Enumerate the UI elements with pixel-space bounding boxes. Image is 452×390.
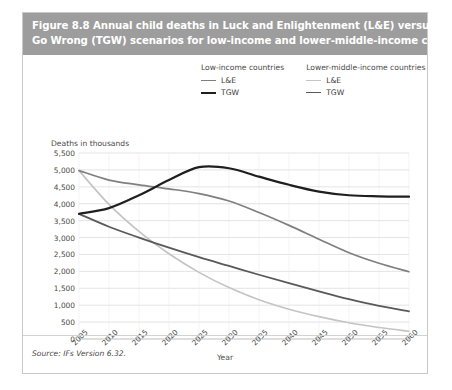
chart-svg bbox=[79, 153, 409, 339]
legend-line-swatch-icon bbox=[201, 80, 216, 81]
y-axis-tick-label: 2,500 bbox=[54, 250, 75, 259]
legend-item[interactable]: L&E bbox=[201, 76, 284, 85]
legend-item[interactable]: TGW bbox=[306, 88, 425, 97]
legend-group-heading: Low-income countries bbox=[201, 63, 284, 72]
y-axis-title: Deaths in thousands bbox=[51, 139, 129, 148]
legend-group: Low-income countriesL&ETGW bbox=[201, 63, 284, 100]
figure-container: Figure 8.8 Annual child deaths in Luck a… bbox=[22, 12, 428, 374]
source-divider bbox=[23, 335, 427, 336]
y-axis-tick-label: 3,000 bbox=[54, 233, 75, 242]
figure-title-line-1: Figure 8.8 Annual child deaths in Luck a… bbox=[32, 19, 418, 34]
y-axis-tick-label: 500 bbox=[61, 318, 75, 327]
y-axis-tick-label: 1,500 bbox=[54, 284, 75, 293]
y-axis-tick-labels: 5,5005,0004,5004,0003,5003,0002,5002,000… bbox=[23, 153, 75, 339]
y-axis-tick-label: 2,000 bbox=[54, 267, 75, 276]
legend-group: Lower-middle-income countriesL&ETGW bbox=[306, 63, 425, 100]
chart-panel: Low-income countriesL&ETGWLower-middle-i… bbox=[23, 55, 427, 366]
y-axis-tick-label: 3,500 bbox=[54, 216, 75, 225]
y-axis-tick-label: 4,500 bbox=[54, 182, 75, 191]
legend-group-heading: Lower-middle-income countries bbox=[306, 63, 425, 72]
series-line bbox=[79, 171, 409, 272]
legend-line-swatch-icon bbox=[201, 92, 216, 94]
y-axis-tick-label: 5,500 bbox=[54, 149, 75, 158]
figure-title-bar: Figure 8.8 Annual child deaths in Luck a… bbox=[23, 13, 427, 55]
y-axis-tick-label: 5,000 bbox=[54, 165, 75, 174]
y-axis-tick-label: 1,000 bbox=[54, 301, 75, 310]
legend-item-label: L&E bbox=[326, 76, 341, 85]
plot-area bbox=[79, 153, 409, 339]
legend-item[interactable]: L&E bbox=[306, 76, 425, 85]
legend-line-swatch-icon bbox=[306, 92, 321, 93]
gridlines bbox=[79, 153, 409, 339]
source-note: Source: IFs Version 6.32. bbox=[32, 349, 126, 358]
legend-item-label: TGW bbox=[221, 88, 239, 97]
series-line bbox=[79, 171, 409, 332]
legend-item-label: L&E bbox=[221, 76, 236, 85]
y-axis-tick-label: 4,000 bbox=[54, 199, 75, 208]
series-line bbox=[79, 214, 409, 311]
legend-item-label: TGW bbox=[326, 88, 344, 97]
legend-line-swatch-icon bbox=[306, 80, 321, 81]
legend-item[interactable]: TGW bbox=[201, 88, 284, 97]
figure-title-line-2: Go Wrong (TGW) scenarios for low-income … bbox=[32, 34, 418, 49]
chart-legend: Low-income countriesL&ETGWLower-middle-i… bbox=[201, 63, 419, 100]
series-lines bbox=[79, 166, 409, 331]
